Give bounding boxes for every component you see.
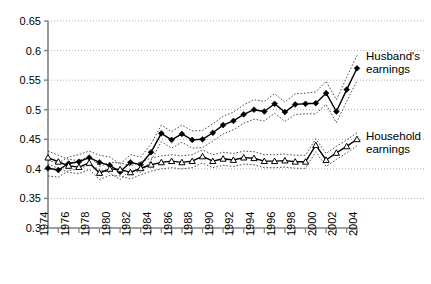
data-point xyxy=(86,160,92,166)
legend-household-line2: earnings xyxy=(366,143,421,156)
x-axis-tick-labels: 1974197619781980198219841986198819901992… xyxy=(38,212,359,236)
data-point xyxy=(199,153,205,159)
data-point xyxy=(251,107,257,113)
ci-band-household xyxy=(48,146,357,180)
data-point xyxy=(334,109,340,115)
legend-label-husband-earnings: Husband's earnings xyxy=(366,50,420,76)
x-tick-label: 1980 xyxy=(100,212,112,236)
x-tick-label: 1982 xyxy=(120,212,132,236)
x-tick-label: 1988 xyxy=(182,212,194,236)
legend-husband-line2: earnings xyxy=(366,63,420,76)
legend-household-line1: Household xyxy=(366,130,421,143)
x-tick-label: 1984 xyxy=(141,212,153,236)
x-tick-label: 1990 xyxy=(203,212,215,236)
y-axis-tick-labels: 0.30.350.40.450.50.550.60.65 xyxy=(20,15,41,234)
gridlines xyxy=(48,21,425,198)
y-tick-label: 0.6 xyxy=(26,45,41,57)
x-tick-label: 1992 xyxy=(223,212,235,236)
x-tick-label: 1978 xyxy=(79,212,91,236)
x-tick-label: 1998 xyxy=(285,212,297,236)
data-point xyxy=(313,142,319,148)
x-tick-label: 2000 xyxy=(306,212,318,236)
data-point xyxy=(45,165,51,171)
x-tick-label: 2002 xyxy=(326,212,338,236)
data-point xyxy=(344,87,350,93)
y-tick-label: 0.65 xyxy=(20,15,41,27)
data-point xyxy=(354,65,360,71)
legend-husband-line1: Husband's xyxy=(366,50,420,63)
y-tick-label: 0.35 xyxy=(20,192,41,204)
y-tick-label: 0.5 xyxy=(26,104,41,116)
x-tick-label: 1994 xyxy=(244,212,256,236)
data-point xyxy=(179,131,185,137)
data-point xyxy=(333,150,339,156)
chart-container: 0.30.350.40.450.50.550.60.65 19741976197… xyxy=(0,0,431,284)
y-tick-label: 0.45 xyxy=(20,133,41,145)
x-tick-label: 1976 xyxy=(59,212,71,236)
x-tick-label: 1986 xyxy=(162,212,174,236)
data-point xyxy=(303,101,309,107)
confidence-interval-bands xyxy=(48,55,357,179)
x-tick-label: 2004 xyxy=(347,212,359,236)
legend-label-household-earnings: Household earnings xyxy=(366,130,421,156)
x-tick-label: 1974 xyxy=(38,212,50,236)
x-tick-label: 1996 xyxy=(265,212,277,236)
data-point xyxy=(45,155,51,161)
y-tick-label: 0.4 xyxy=(26,163,41,175)
data-point xyxy=(189,137,195,143)
y-tick-label: 0.55 xyxy=(20,74,41,86)
